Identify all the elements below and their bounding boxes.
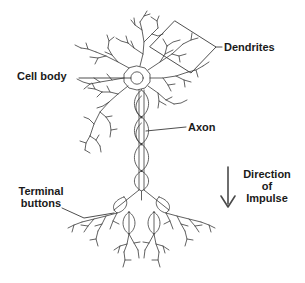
terminal-button-branches-center (114, 234, 169, 267)
dendrite-tree-lower-left (80, 83, 128, 153)
axon-shaft (139, 90, 144, 190)
dendrite-tree-upper-center (116, 11, 163, 66)
dendrite-tree-upper-right (148, 33, 198, 70)
label-terminal-buttons-line2: buttons (10, 197, 72, 209)
nodes-of-ranvier (140, 116, 142, 172)
label-direction-line1: Direction (236, 168, 298, 180)
direction-arrow-icon (221, 167, 235, 207)
dendrite-tree-right (150, 62, 209, 91)
label-axon: Axon (188, 121, 216, 133)
dendrite-tree-left (77, 74, 124, 89)
leader-line-axon (146, 127, 186, 131)
label-cell-body: Cell body (17, 70, 67, 82)
nucleus-icon (131, 72, 143, 84)
terminal-button-branches-left (68, 213, 119, 246)
label-direction-line3: Impulse (236, 192, 298, 204)
label-terminal-buttons-line1: Terminal (10, 185, 72, 197)
axon-terminal-branches (113, 190, 169, 234)
label-direction-of-impulse: Direction of Impulse (236, 168, 298, 204)
terminal-button-branches-right (164, 213, 215, 246)
label-dendrites: Dendrites (224, 41, 275, 53)
myelin-segments (134, 90, 148, 191)
neuron-diagram: Dendrites Cell body Axon Terminal button… (0, 0, 305, 283)
label-terminal-buttons: Terminal buttons (10, 185, 72, 209)
label-direction-line2: of (236, 180, 298, 192)
dendrite-tree-lower-right (148, 86, 187, 108)
dendrite-tree-upper-left (75, 35, 129, 68)
leader-line-terminal-buttons (62, 208, 114, 218)
dendrites-bracket (150, 21, 216, 73)
